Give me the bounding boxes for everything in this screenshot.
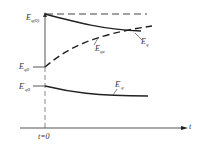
- label-eq-prime: E′q: [115, 80, 123, 90]
- label-eq: Eq: [141, 38, 148, 47]
- label-eqe: Eqe: [95, 45, 105, 54]
- label-eq0: Eq0: [19, 63, 29, 72]
- label-eq0-prime: E′q0: [19, 82, 30, 92]
- right-arrow-icon: [181, 126, 188, 130]
- emf-transient-diagram: Eq(0) Eq0 E′q0 Eqe Eq E′q t=0 t: [0, 0, 201, 152]
- label-t-zero: t=0: [38, 133, 50, 141]
- label-t-axis: t: [189, 123, 191, 131]
- eq-prime-curve: [45, 86, 148, 96]
- label-eq-initial: Eq(0): [26, 14, 39, 23]
- eq-curve: [45, 14, 141, 31]
